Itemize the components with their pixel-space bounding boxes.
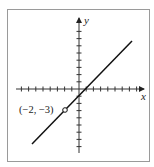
x-axis-label: x xyxy=(140,90,146,102)
y-axis-label: y xyxy=(83,14,89,26)
point-label: (−2, −3) xyxy=(19,104,54,116)
coordinate-plane: y x (−2, −3) xyxy=(0,0,154,167)
data-line xyxy=(32,41,132,144)
open-circle-point xyxy=(63,108,68,113)
